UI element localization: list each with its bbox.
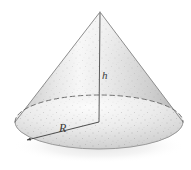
cone-diagram-svg	[0, 0, 191, 170]
cone-figure: h R	[0, 0, 191, 170]
radius-label: R	[59, 122, 66, 134]
height-label: h	[102, 70, 108, 81]
